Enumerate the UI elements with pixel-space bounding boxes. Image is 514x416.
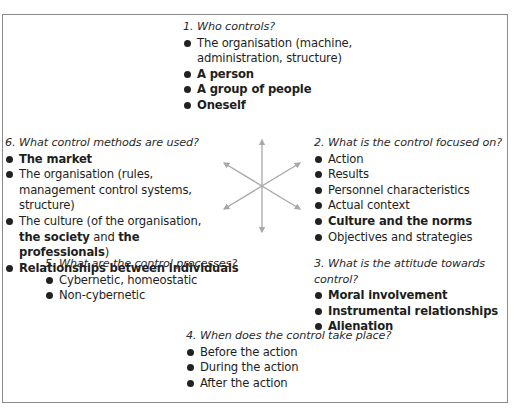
bullet-icon (315, 218, 322, 225)
list-item: A group of people (183, 82, 383, 98)
list-item: After the action (186, 376, 396, 392)
list-item: The organisation (rules, management cont… (5, 167, 220, 214)
list-item: Action (314, 152, 509, 168)
list-item: The market (5, 152, 220, 168)
block-attitude: 3. What is the attitude towards control?… (314, 256, 509, 335)
heading-control-methods: 6. What control methods are used? (5, 135, 220, 151)
bullet-icon (184, 86, 191, 93)
bullet-icon (315, 156, 322, 163)
list-item: During the action (186, 360, 396, 376)
bullet-icon (46, 277, 53, 284)
list-item: Instrumental relationships (314, 304, 509, 320)
block-control-processes: 5. What are the control processes? Cyber… (45, 256, 245, 304)
list-item: Personnel characteristics (314, 183, 509, 199)
heading-control-processes: 5. What are the control processes? (45, 256, 245, 272)
bullet-icon (6, 171, 13, 178)
list-item: Actual context (314, 198, 509, 214)
bullet-icon (184, 102, 191, 109)
bullet-icon (315, 308, 322, 315)
heading-timing: 4. When does the control take place? (186, 328, 396, 344)
bullet-icon (315, 171, 322, 178)
bullet-icon (187, 349, 194, 356)
bullet-icon (315, 292, 322, 299)
block-who-controls: 1. Who controls? The organisation (machi… (183, 19, 383, 114)
bullet-icon (187, 380, 194, 387)
bullet-icon (315, 187, 322, 194)
bullet-icon (187, 364, 194, 371)
list-item: The organisation (machine, administratio… (183, 36, 383, 67)
bullet-icon (6, 156, 13, 163)
bullet-icon (184, 40, 191, 47)
bullet-icon (6, 265, 13, 272)
list-item: Non-cybernetic (45, 288, 245, 304)
list-item: Objectives and strategies (314, 230, 509, 246)
six-arrows-icon (210, 130, 320, 245)
block-control-focus: 2. What is the control focused on? Actio… (314, 135, 509, 245)
list-item: Culture and the norms (314, 214, 509, 230)
bullet-icon (6, 218, 13, 225)
heading-control-focus: 2. What is the control focused on? (314, 135, 509, 151)
block-timing: 4. When does the control take place? Bef… (186, 328, 396, 391)
list-item: Before the action (186, 345, 396, 361)
bullet-icon (315, 234, 322, 241)
list-item: Cybernetic, homeostatic (45, 273, 245, 289)
bullet-icon (46, 292, 53, 299)
list-item: Oneself (183, 98, 383, 114)
list-item: Results (314, 167, 509, 183)
list-item: The culture (of the organisation, the so… (5, 214, 220, 261)
list-item: A person (183, 67, 383, 83)
bullet-icon (184, 71, 191, 78)
list-item: Moral involvement (314, 288, 509, 304)
bullet-icon (315, 202, 322, 209)
heading-who-controls: 1. Who controls? (183, 19, 383, 35)
heading-attitude: 3. What is the attitude towards control? (314, 256, 509, 287)
